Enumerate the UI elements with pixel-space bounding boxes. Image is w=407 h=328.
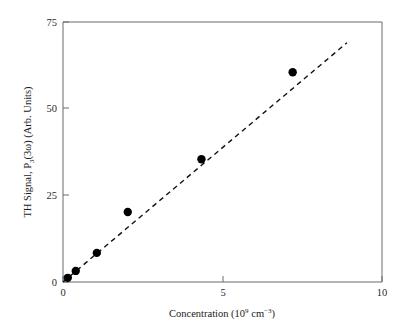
- y-tick-label-25: 25: [47, 190, 58, 201]
- y-tick-label-75: 75: [47, 17, 58, 28]
- scatter-plot-svg: 0 25 50 75 0 5 10 Concentration (109 cm−…: [0, 0, 407, 328]
- x-axis-title-mid: cm: [249, 308, 264, 319]
- data-point: [72, 267, 80, 275]
- data-point: [64, 274, 72, 282]
- x-tick-label-5: 5: [220, 287, 225, 298]
- x-tick-label-10: 10: [377, 287, 388, 298]
- y-tick-label-0: 0: [52, 277, 57, 288]
- y-tick-label-50: 50: [47, 103, 58, 114]
- y-axis-title-part2: (3ω) (Arb. Units): [22, 86, 34, 160]
- data-point: [124, 208, 132, 216]
- x-axis-title-main: Concentration (10: [169, 308, 245, 320]
- data-point: [288, 68, 296, 76]
- y-axis-title-part1: TH Signal, P: [22, 163, 33, 218]
- data-point: [93, 249, 101, 257]
- chart-figure: 0 25 50 75 0 5 10 Concentration (109 cm−…: [0, 0, 407, 328]
- x-axis-title: Concentration (109 cm−3): [169, 307, 276, 320]
- x-axis-title-close: ): [272, 308, 276, 320]
- data-point: [197, 155, 205, 163]
- x-tick-label-0: 0: [60, 287, 65, 298]
